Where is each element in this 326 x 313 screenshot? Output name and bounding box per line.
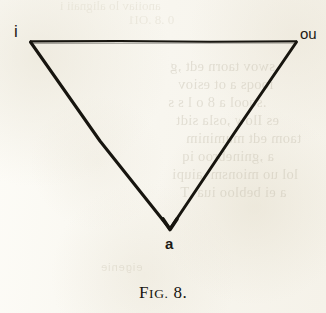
figure-caption-number: 8. (174, 283, 188, 302)
triangle-edge-top (30, 41, 297, 42)
triangle-edge-left (31, 42, 171, 229)
vertex-label-i: i (14, 23, 18, 40)
vowel-triangle-diagram (0, 0, 326, 313)
triangle-edge-right (170, 42, 297, 229)
scanned-figure-page: anoiiav lo alignaii i 0 .8 .OI1 swov tao… (0, 0, 326, 313)
triangle-apex-join (163, 219, 177, 230)
figure-caption-smallcaps: IG. (149, 286, 169, 301)
vertex-label-a: a (165, 236, 173, 251)
figure-caption-lead: F (139, 283, 149, 302)
figure-caption: FIG. 8. (0, 283, 326, 303)
vertex-label-ou: ou (300, 26, 316, 41)
triangle-edges (30, 41, 297, 230)
